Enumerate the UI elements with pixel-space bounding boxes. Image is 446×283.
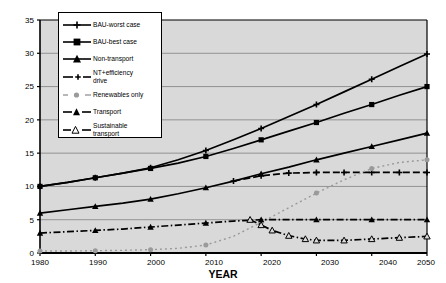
legend-swatch-sustainable-transport — [62, 123, 92, 137]
legend-swatch-non-transport — [62, 52, 92, 66]
legend-item-bau-best-case: BAU-best case — [62, 33, 159, 50]
legend-item-sustainable-transport: Sustainable transport — [62, 120, 159, 139]
chart-legend: BAU-worst case BAU-best case Non-transpo… — [58, 12, 162, 138]
legend-swatch-renewables-only — [62, 88, 92, 102]
legend-swatch-nt-efficiency-drive — [62, 70, 92, 84]
legend-swatch-transport — [62, 105, 92, 119]
legend-swatch-bau-best-case — [62, 35, 92, 49]
legend-label: Sustainable transport — [92, 122, 127, 137]
legend-label: Non-transport — [92, 55, 133, 62]
legend-label: NT+efficiency drive — [92, 69, 133, 84]
legend-label: Transport — [92, 108, 121, 115]
legend-item-transport: Transport — [62, 103, 159, 120]
legend-swatch-bau-worst-case — [62, 18, 92, 32]
legend-item-nt-efficiency-drive: NT+efficiency drive — [62, 67, 159, 86]
legend-label: BAU-best case — [92, 38, 137, 45]
chart-figure: POWER in TW YEAR 35 30 25 20 15 10 5 0 1… — [0, 0, 446, 283]
legend-label: Renewables only — [92, 91, 143, 98]
legend-item-non-transport: Non-transport — [62, 50, 159, 67]
legend-item-renewables-only: Renewables only — [62, 86, 159, 103]
legend-label: BAU-worst case — [92, 21, 140, 28]
legend-item-bau-worst-case: BAU-worst case — [62, 16, 159, 33]
